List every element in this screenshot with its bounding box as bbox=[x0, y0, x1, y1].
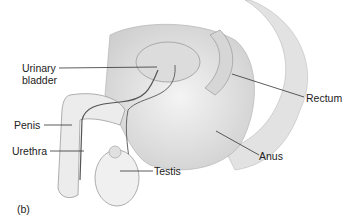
panel-label: (b) bbox=[17, 203, 30, 215]
label-rectum: Rectum bbox=[306, 92, 342, 104]
anatomy-illustration bbox=[0, 0, 356, 221]
label-penis: Penis bbox=[14, 119, 40, 131]
label-anus: Anus bbox=[259, 150, 283, 162]
label-urethra: Urethra bbox=[12, 145, 47, 157]
anatomy-figure: Urinary bladder Rectum Penis Urethra Tes… bbox=[0, 0, 356, 221]
label-testis: Testis bbox=[154, 165, 181, 177]
label-urinary-bladder: Urinary bladder bbox=[22, 62, 57, 86]
